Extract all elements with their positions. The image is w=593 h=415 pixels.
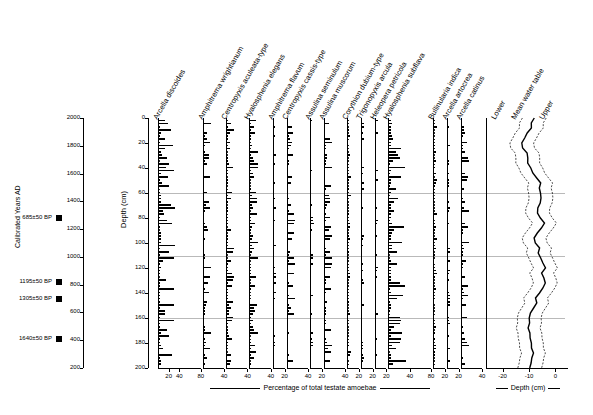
chart-figure: 685±50 BP1195±50 BP1305±50 BP1640±50 BP … bbox=[0, 0, 593, 415]
footer-main-caption: Percentage of total testate amoebae bbox=[158, 384, 482, 391]
watertable-curves bbox=[0, 0, 593, 415]
footer-right-caption: Depth (cm) bbox=[486, 384, 570, 391]
